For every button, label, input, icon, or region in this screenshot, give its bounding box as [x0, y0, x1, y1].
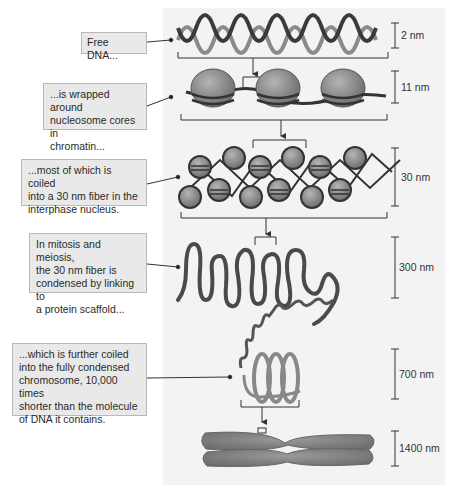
callout-line: In mitosis and meiosis,	[36, 238, 140, 264]
callout-line: of DNA it contains.	[19, 413, 140, 426]
callout-free-dna: Free DNA...	[81, 32, 147, 54]
nucleosome-string	[186, 69, 386, 107]
scale-label-300nm: 300 nm	[399, 261, 434, 273]
scale-bars	[391, 23, 399, 466]
scale-label-11nm: 11 nm	[401, 81, 429, 93]
callout-line: chromosome, 10,000 times	[19, 374, 140, 400]
callout-line: Free DNA...	[87, 36, 141, 62]
callout-line: ...which is further coiled	[19, 348, 140, 361]
looped-fiber	[178, 244, 338, 324]
callout-line: into the fully condensed	[19, 361, 140, 374]
callout-chromosome: ...which is further coiled into the full…	[12, 343, 147, 416]
callout-line: a protein scaffold...	[36, 303, 140, 316]
fiber-30nm	[179, 147, 400, 208]
callout-line: chromatin...	[50, 140, 140, 153]
scale-label-1400nm: 1400 nm	[399, 442, 440, 454]
callout-line: nucleosome cores in	[50, 114, 140, 140]
scale-label-2nm: 2 nm	[401, 29, 424, 41]
callout-line: the 30 nm fiber is	[36, 264, 140, 277]
callout-line: into a 30 nm fiber in the	[28, 190, 140, 203]
callout-line: interphase nucleus.	[28, 203, 140, 216]
coiled-chromatid	[244, 354, 300, 402]
callout-30nm-fiber: ...most of which is coiled into a 30 nm …	[21, 159, 147, 206]
callout-line: ...is wrapped around	[50, 88, 140, 114]
callout-line: shorter than the molecule	[19, 400, 140, 413]
dna-helix	[178, 15, 376, 53]
scale-label-30nm: 30 nm	[401, 171, 430, 183]
chromosome	[202, 432, 374, 466]
callout-scaffold: In mitosis and meiosis, the 30 nm fiber …	[29, 233, 147, 293]
callout-line: ...most of which is coiled	[28, 164, 140, 190]
callout-line: condensed by linking to	[36, 277, 140, 303]
scale-label-700nm: 700 nm	[399, 368, 434, 380]
callout-nucleosome: ...is wrapped around nucleosome cores in…	[43, 83, 147, 130]
